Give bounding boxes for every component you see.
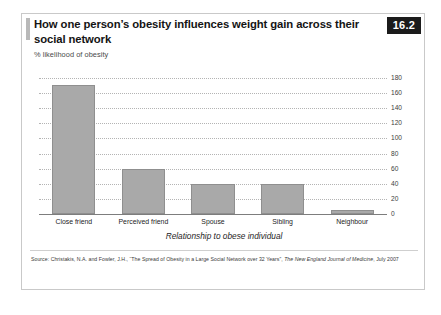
category-label: Sibling xyxy=(248,218,318,225)
y-tick-label: 100 xyxy=(391,134,415,141)
category-label: Spouse xyxy=(178,218,248,225)
category-label: Close friend xyxy=(39,218,109,225)
bar-series xyxy=(39,78,387,214)
y-tick-label: 20 xyxy=(391,195,415,202)
chart-subtitle: % likelihood of obesity xyxy=(34,50,108,59)
source-prefix: Source: Christakis, N.A. and Fowler, J.H… xyxy=(31,256,284,262)
figure-header: How one person’s obesity influences weig… xyxy=(22,14,426,70)
y-tick-label: 80 xyxy=(391,150,415,157)
y-tick-label: 0 xyxy=(391,210,415,217)
category-label: Neighbour xyxy=(317,218,387,225)
source-suffix: , July 2007 xyxy=(373,256,399,262)
x-axis-title: Relationship to obese individual xyxy=(22,231,426,241)
y-tick-label: 140 xyxy=(391,104,415,111)
y-tick-label: 60 xyxy=(391,165,415,172)
y-tick-label: 160 xyxy=(391,89,415,96)
bar xyxy=(191,184,234,214)
source-journal: The New England Journal of Medicine xyxy=(284,256,373,262)
source-divider xyxy=(30,250,418,251)
plot-area: 020406080100120140160180 Close friendPer… xyxy=(39,78,387,214)
bar xyxy=(52,85,95,214)
title-accent-bar xyxy=(26,18,30,40)
x-axis-line xyxy=(39,214,387,215)
category-label: Perceived friend xyxy=(109,218,179,225)
y-tick-label: 40 xyxy=(391,180,415,187)
figure-panel: How one person’s obesity influences weig… xyxy=(21,13,425,290)
bar xyxy=(261,184,304,214)
y-tick-label: 120 xyxy=(391,119,415,126)
y-tick-label: 180 xyxy=(391,74,415,81)
figure-number-badge: 16.2 xyxy=(387,17,421,34)
page-title: How one person’s obesity influences weig… xyxy=(34,17,374,46)
bar xyxy=(122,169,165,214)
source-note: Source: Christakis, N.A. and Fowler, J.H… xyxy=(31,256,421,262)
